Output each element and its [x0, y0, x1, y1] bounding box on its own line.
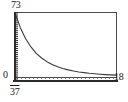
y-axis-max-label: 73: [11, 0, 20, 10]
x-axis-max-label: 18: [114, 72, 123, 82]
x-axis-line: [13, 80, 118, 82]
chart-container: 73 0 37 18: [0, 0, 128, 102]
y-axis-origin-label: 0: [3, 70, 8, 80]
x-axis-min-label: 37: [10, 87, 19, 97]
decay-curve-line: [15, 13, 116, 75]
y-axis-line: [14, 12, 16, 82]
